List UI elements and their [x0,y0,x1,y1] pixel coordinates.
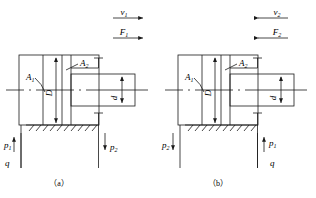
panel-a-caption: （a） [49,179,69,188]
panel-a-area2-label: A2 [79,58,89,69]
panel-a-port-rod-bottom [94,113,103,122]
panel-a-pressure-left-label: p1 [3,140,12,151]
hydraulic-cylinder-figure: v1 F1 A1 A2 D d p1 q p2 （a） v2 F2 A1 A2 … [0,0,316,198]
panel-a-ground [26,125,99,131]
panel-b-velocity-label: v2 [274,7,281,18]
panel-a-area1-label: A1 [25,72,35,83]
panel-b-area2-leader [225,64,237,70]
panel-b-bore-label: D [203,89,213,97]
panel-a-force-label: F1 [119,27,129,38]
panel-b-force-label: F2 [272,27,282,38]
panel-a-flow-left-label: q [5,158,10,168]
figure-canvas: v1 F1 A1 A2 D d p1 q p2 （a） v2 F2 A1 A2 … [0,0,316,198]
panel-b-area1-label: A1 [184,72,194,83]
panel-b-rod-label: d [268,95,278,100]
panel-b-caption: （b） [208,179,228,188]
panel-a-bore-label: D [44,89,54,97]
panel-b-flow-right-label: q [270,158,275,168]
panel-a-pressure-right-label: p2 [109,142,118,153]
panel-b-area2-label: A2 [238,58,248,69]
panel-b-pressure-right-label: p1 [268,138,277,149]
panel-a [6,18,148,168]
panel-a-area2-leader [66,64,78,70]
panel-b-port-rod-bottom [253,113,262,122]
panel-b-ground [185,125,258,131]
panel-a-velocity-label: v1 [121,7,128,18]
panel-b-pressure-left-label: p2 [161,140,170,151]
panel-a-rod-label: d [109,95,119,100]
panel-b [165,18,307,168]
